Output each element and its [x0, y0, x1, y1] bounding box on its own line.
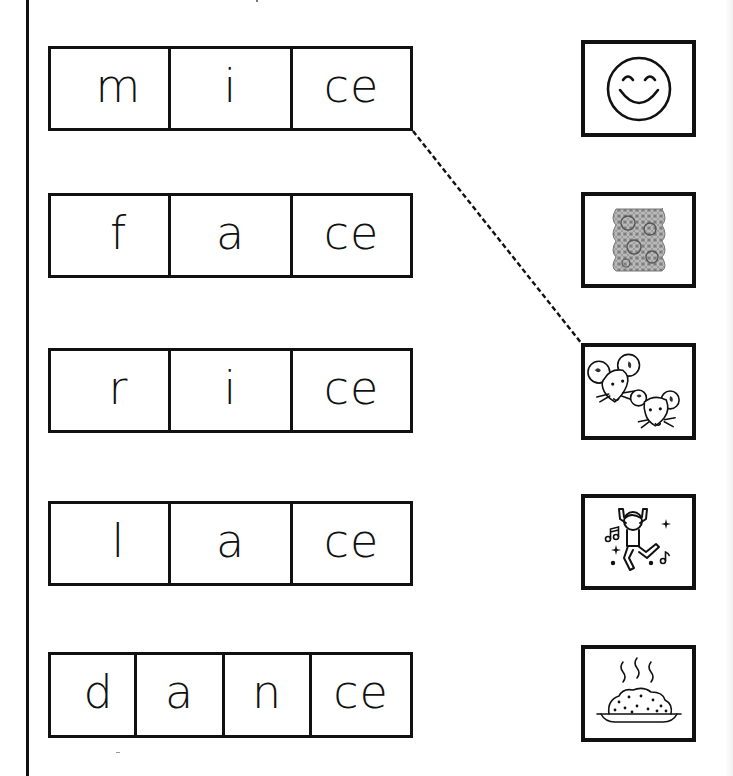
letter-cell: ce — [293, 504, 410, 583]
page-right-edge — [725, 0, 733, 776]
lace-icon — [610, 207, 668, 273]
picture-box-dance[interactable] — [581, 494, 696, 590]
word-row-rice[interactable]: r i ce — [48, 348, 413, 433]
letter-cell: l — [51, 504, 171, 583]
dancing-person-icon — [599, 503, 679, 581]
letter-cell: n — [225, 655, 312, 735]
page-margin-rule — [26, 0, 29, 776]
letter-cell: ce — [293, 351, 410, 430]
letter-cell: m — [51, 49, 171, 128]
picture-box-lace[interactable] — [581, 192, 696, 288]
picture-box-smiley-face[interactable] — [581, 40, 696, 137]
letter-cell: ce — [293, 196, 410, 275]
letter-cell: ce — [293, 49, 410, 128]
word-row-mice[interactable]: m i ce — [48, 46, 413, 131]
picture-box-mice[interactable] — [581, 343, 696, 440]
letter-cell: d — [51, 655, 137, 735]
letter-cell: i — [171, 351, 293, 430]
picture-box-rice[interactable] — [581, 645, 696, 742]
dashed-match-line — [413, 131, 582, 344]
steaming-rice-plate-icon — [591, 656, 687, 732]
scan-speck — [256, 0, 258, 2]
letter-cell: ce — [312, 655, 410, 735]
letter-cell: a — [171, 504, 293, 583]
letter-cell: a — [137, 655, 225, 735]
two-mice-icon — [585, 348, 692, 436]
letter-cell: f — [51, 196, 171, 275]
letter-cell: i — [171, 49, 293, 128]
letter-cell: r — [51, 351, 171, 430]
smiley-face-icon — [604, 54, 674, 124]
word-row-lace[interactable]: l a ce — [48, 501, 413, 586]
letter-cell: a — [171, 196, 293, 275]
word-row-face[interactable]: f a ce — [48, 193, 413, 278]
stray-mark — [116, 752, 120, 753]
word-row-dance[interactable]: d a n ce — [48, 652, 413, 738]
